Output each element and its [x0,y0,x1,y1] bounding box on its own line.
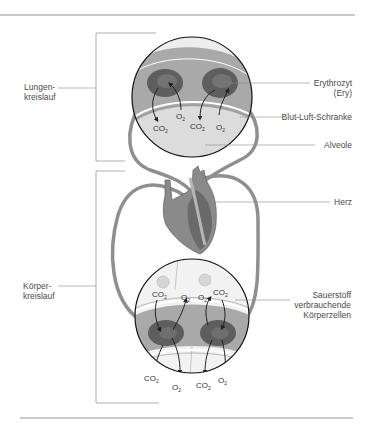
label-lungenkreislauf: Lungen- kreislauf [24,82,56,102]
svg-text:CO2: CO2 [144,374,159,384]
label-koerperzellen: Sauerstoff verbrauchende Körperzellen [294,290,351,320]
label-koerperkreislauf: Körper- kreislauf [23,281,55,301]
label-erythrozyt: Erythrozyt (Ery) [314,78,352,98]
label-blut-luft-schranke: Blut-Luft-Schranke [282,112,352,122]
svg-text:O2: O2 [218,376,227,386]
label-alveole: Alveole [324,140,352,150]
circulation-diagram: CO2 O2 CO2 O2 CO2 O2 [0,0,369,431]
label-herz: Herz [334,197,352,207]
svg-text:O2: O2 [172,383,181,393]
svg-text:CO2: CO2 [196,381,211,391]
